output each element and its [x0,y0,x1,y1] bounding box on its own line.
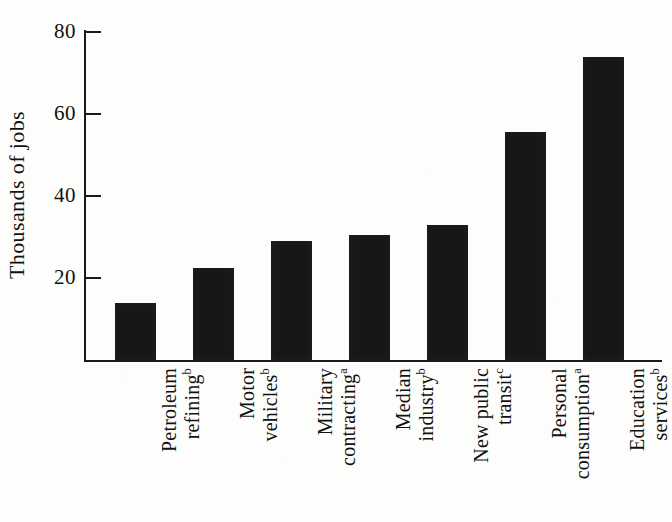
x-axis-label-line2: transitc [493,368,516,518]
y-axis-tick-mark [84,277,101,279]
x-axis-label-line2-text: consumption [571,374,593,480]
chart-page: Thousands of jobs 80604020 Petroleumrefi… [0,0,672,522]
y-axis-title: Thousands of jobs [0,15,34,375]
y-axis-tick-mark [84,31,101,33]
x-axis-label-line1: New public [470,368,493,518]
x-axis-baseline [84,360,662,362]
x-axis-label-footnote-marker: b [258,368,272,374]
x-axis-label-line1: Personal [548,368,571,518]
bar [349,235,390,360]
y-axis-tick-label: 60 [30,103,76,124]
x-axis-label-line2: servicesb [649,368,672,518]
x-axis-label: New publictransitc [470,368,514,518]
x-axis-label-line2-text: industry [415,374,437,441]
bar [427,225,468,360]
x-axis-label: Medianindustryb [392,368,436,518]
x-axis-label-line2: contractinga [337,368,360,518]
x-axis-label-footnote-marker: a [336,368,350,374]
x-axis-label: Personalconsumptiona [548,368,592,518]
x-axis-label-footnote-marker: c [492,368,506,374]
bar [193,268,234,360]
x-axis-label-footnote-marker: b [414,368,428,374]
bar [583,57,624,360]
x-axis-label-line2-text: vehicles [259,374,281,441]
x-axis-label-footnote-marker: b [648,368,662,374]
x-axis-label-footnote-marker: a [570,368,584,374]
y-axis-tick-label: 40 [30,185,76,206]
x-axis-label-line1: Education [626,368,649,518]
x-axis-label-line2-text: refining [181,374,203,439]
x-axis-label-line1: Motor [236,368,259,518]
x-axis-label-line2: industryb [415,368,438,518]
y-axis-tick-label: 80 [30,21,76,42]
x-axis-label-line2-text: contracting [337,374,359,466]
bar [505,132,546,360]
x-axis-label-line2: vehiclesb [259,368,282,518]
x-axis-label-line1: Military [314,368,337,518]
bar [271,241,312,360]
x-axis-label: Petroleumrefiningb [158,368,202,518]
x-axis-label-line2: refiningb [181,368,204,518]
x-axis-label: Militarycontractinga [314,368,358,518]
y-axis-tick-mark [84,113,101,115]
x-axis-label-footnote-marker: b [180,368,194,374]
x-axis-label-line1: Petroleum [158,368,181,518]
x-axis-label: Educationservicesb [626,368,670,518]
y-axis-tick-mark [84,195,101,197]
y-axis-tick-label: 20 [30,267,76,288]
x-axis-label-line2-text: services [649,374,671,440]
x-axis-label-line1: Median [392,368,415,518]
x-axis-label-line2: consumptiona [571,368,594,518]
bar-chart: Thousands of jobs 80604020 Petroleumrefi… [0,0,672,522]
bar [115,303,156,360]
x-axis-label-line2-text: transit [493,374,515,425]
x-axis-label: Motorvehiclesb [236,368,280,518]
